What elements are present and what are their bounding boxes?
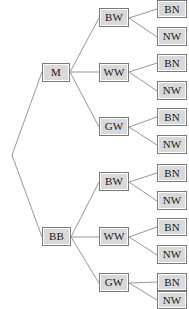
tree-node-label: BN [164,221,180,232]
tree-node-label: GW [105,121,124,132]
tree-node-bb-bw-bn[interactable]: BN [157,164,187,182]
tree-node-label: NW [163,139,182,150]
tree-node-m-gw[interactable]: GW [99,117,129,136]
tree-node-label: NW [163,249,182,260]
tree-node-label: BW [105,12,123,23]
tree-node-bb-bw[interactable]: BW [99,172,129,191]
tree-node-m-gw-bn[interactable]: BN [157,108,187,126]
tree-node-bb-gw[interactable]: GW [99,273,129,292]
tree-node-label: NW [163,31,182,42]
tree-node-bb[interactable]: BB [42,227,71,246]
tree-node-label: M [51,67,61,78]
tree-node-bb-ww[interactable]: WW [99,227,129,246]
tree-node-label: BN [164,276,180,287]
tree-edge-bb-ww-to-bb-ww-nw [129,237,157,255]
tree-node-m-bw[interactable]: BW [99,8,129,27]
tree-edge-bb-gw-to-bb-gw-nw [129,283,157,300]
tree-node-bb-gw-bn[interactable]: BN [157,273,187,291]
tree-edge-m-to-m-bw [70,18,99,72]
tree-node-label: BB [49,231,64,242]
tree-node-bb-ww-bn[interactable]: BN [157,218,187,236]
tree-node-bb-ww-nw[interactable]: NW [157,245,187,264]
tree-edge-m-ww-to-m-ww-bn [129,63,157,72]
tree-node-label: BN [164,167,180,178]
tree-node-m-gw-nw[interactable]: NW [157,135,187,154]
tree-node-bb-bw-nw[interactable]: NW [157,191,187,210]
tree-edge-bb-bw-to-bb-bw-bn [129,173,157,182]
tree-node-label: BN [164,3,180,14]
tree-edge-m-bw-to-m-bw-nw [129,18,157,37]
tree-node-label: WW [103,67,124,78]
tree-node-label: NW [163,294,182,305]
tree-node-label: BN [164,111,180,122]
tree-edge-m-bw-to-m-bw-bn [129,9,157,18]
tree-edge-bb-gw-to-bb-gw-bn [129,282,157,283]
tree-edge-root-to-bb [12,155,42,237]
tree-node-m-ww-nw[interactable]: NW [157,81,187,100]
tree-node-label: BW [105,176,123,187]
tree-edge-root-to-m [12,72,42,155]
tree-node-m-ww[interactable]: WW [99,63,129,82]
tree-node-m[interactable]: M [42,63,70,82]
tree-edge-bb-to-bb-bw [71,182,99,237]
tree-edge-bb-to-bb-gw [71,237,99,283]
tree-node-m-bw-bn[interactable]: BN [157,0,187,18]
tree-node-label: BN [164,57,180,68]
tree-node-label: NW [163,85,182,96]
tree-edge-bb-ww-to-bb-ww-bn [129,227,157,237]
tree-node-label: NW [163,195,182,206]
tree-edge-m-to-m-gw [70,72,99,127]
tree-edge-m-gw-to-m-gw-nw [129,127,157,145]
tree-edge-m-ww-to-m-ww-nw [129,72,157,91]
tree-edge-bb-bw-to-bb-bw-nw [129,182,157,201]
tree-node-bb-gw-nw[interactable]: NW [157,291,187,309]
genotype-tree-diagram: MBBBWWWGWBWWWGWBNNWBNNWBNNWBNNWBNNWBNNW [0,0,189,309]
tree-node-m-ww-bn[interactable]: BN [157,54,187,72]
tree-node-m-bw-nw[interactable]: NW [157,27,187,46]
tree-edge-m-gw-to-m-gw-bn [129,117,157,127]
tree-node-label: WW [103,231,124,242]
tree-node-label: GW [105,277,124,288]
